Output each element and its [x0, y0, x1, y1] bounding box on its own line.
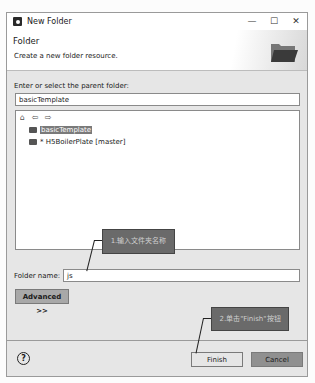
- wizard-title: Folder: [13, 36, 39, 46]
- folder-name-input[interactable]: js: [63, 269, 300, 282]
- folder-banner-icon: [269, 40, 299, 64]
- footer-separator: [7, 340, 307, 341]
- tree-item-h5boilerplate[interactable]: * H5BoilerPlate [master]: [29, 138, 125, 146]
- wizard-header: Folder Create a new folder resource.: [7, 30, 307, 71]
- maximize-button[interactable]: ☐: [267, 15, 281, 27]
- advanced-button[interactable]: Advanced >>: [15, 289, 69, 304]
- finish-button[interactable]: Finish: [191, 352, 243, 367]
- title-bar: New Folder — ☐ ✕: [7, 13, 307, 30]
- cancel-button[interactable]: Cancel: [251, 352, 303, 367]
- wizard-description: Create a new folder resource.: [14, 52, 118, 60]
- minimize-button[interactable]: —: [245, 15, 259, 27]
- annotation-step1: 1.输入文件夹名称: [102, 229, 175, 254]
- parent-folder-input[interactable]: basicTemplate: [15, 93, 300, 106]
- folder-name-label: Folder name:: [14, 272, 60, 280]
- help-icon[interactable]: ?: [17, 352, 30, 365]
- annotation-step2: 2.单击"Finish"按钮: [211, 307, 289, 331]
- parent-folder-label: Enter or select the parent folder:: [14, 82, 129, 90]
- tree-nav-toolbar[interactable]: ⌂ ⇦ ⇨: [20, 113, 54, 122]
- window-title: New Folder: [27, 17, 72, 26]
- tree-item-basictemplate[interactable]: basicTemplate: [29, 126, 92, 134]
- annotation-step2-leader-h: [203, 318, 211, 319]
- project-icon: [29, 127, 37, 133]
- close-button[interactable]: ✕: [289, 15, 303, 27]
- annotation-step1-leader-h: [94, 240, 102, 241]
- eclipse-app-icon: [13, 17, 22, 26]
- project-icon: [29, 139, 37, 145]
